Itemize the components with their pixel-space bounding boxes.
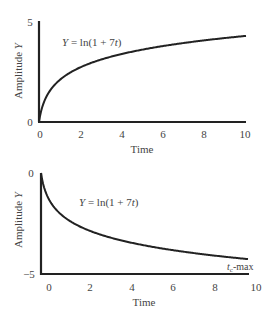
top-curve xyxy=(39,36,246,122)
top-ytick-5: 5 xyxy=(27,16,33,28)
svg-text:2: 2 xyxy=(87,281,93,293)
bottom-xticks: 0 2 4 6 8 10 xyxy=(46,281,262,293)
bottom-ytick-0: 0 xyxy=(28,167,34,179)
figure: 5 0 0 2 4 6 8 10 Time Amplitude Y Y = ln… xyxy=(0,0,272,322)
svg-text:6: 6 xyxy=(160,128,166,140)
tc-max-label: tc-max xyxy=(227,261,253,274)
bottom-x-label: Time xyxy=(133,296,156,308)
bottom-equation: Y = ln(1 + 7t) xyxy=(79,196,139,209)
top-chart: 5 0 0 2 4 6 8 10 Time Amplitude Y Y = ln… xyxy=(12,16,251,155)
svg-text:6: 6 xyxy=(170,281,176,293)
svg-text:8: 8 xyxy=(201,128,207,140)
top-equation: Y = ln(1 + 7t) xyxy=(62,36,122,49)
bottom-ytick-neg5: −5 xyxy=(23,268,35,280)
svg-text:10: 10 xyxy=(240,128,252,140)
svg-text:0: 0 xyxy=(46,281,52,293)
top-xticks: 0 2 4 6 8 10 xyxy=(37,128,251,140)
bottom-y-label: Amplitude Y xyxy=(12,190,24,248)
svg-text:4: 4 xyxy=(129,281,135,293)
bottom-curve xyxy=(41,173,248,259)
svg-text:8: 8 xyxy=(212,281,218,293)
bottom-chart: 0 −5 0 2 4 6 8 10 Time Amplitude Y Y = l… xyxy=(12,167,262,308)
top-y-label: Amplitude Y xyxy=(12,41,24,99)
svg-text:4: 4 xyxy=(119,128,125,140)
svg-text:10: 10 xyxy=(251,281,263,293)
top-x-label: Time xyxy=(131,143,154,155)
top-ytick-0: 0 xyxy=(27,116,33,128)
svg-text:0: 0 xyxy=(37,128,43,140)
svg-text:2: 2 xyxy=(78,128,84,140)
